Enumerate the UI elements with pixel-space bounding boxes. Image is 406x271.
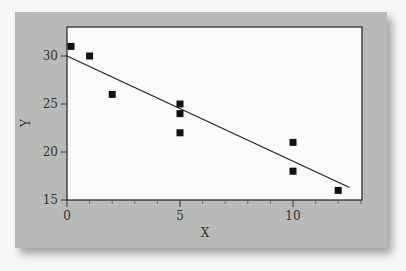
data-point: [177, 101, 184, 108]
data-point: [86, 53, 93, 60]
y-tick-label: 20: [43, 145, 58, 159]
data-point: [177, 129, 184, 136]
plot-area: [67, 27, 362, 200]
x-tick-label: 5: [176, 209, 184, 223]
data-point: [68, 43, 75, 50]
data-point: [335, 187, 342, 194]
x-axis: 0510: [63, 200, 300, 223]
data-point: [109, 91, 116, 98]
scatter-chart: 15202530 0510 X Y: [0, 0, 406, 271]
y-tick-label: 15: [43, 193, 58, 207]
x-axis-label: X: [201, 226, 210, 240]
y-axis-label: Y: [19, 118, 33, 128]
x-tick-label: 0: [63, 209, 71, 223]
x-minor-ticks: [90, 200, 361, 204]
y-tick-label: 25: [43, 97, 58, 111]
y-axis: 15202530: [43, 49, 67, 207]
x-tick-label: 10: [285, 209, 300, 223]
data-point: [177, 110, 184, 117]
y-tick-label: 30: [43, 49, 58, 63]
data-point: [290, 168, 297, 175]
data-point: [290, 139, 297, 146]
